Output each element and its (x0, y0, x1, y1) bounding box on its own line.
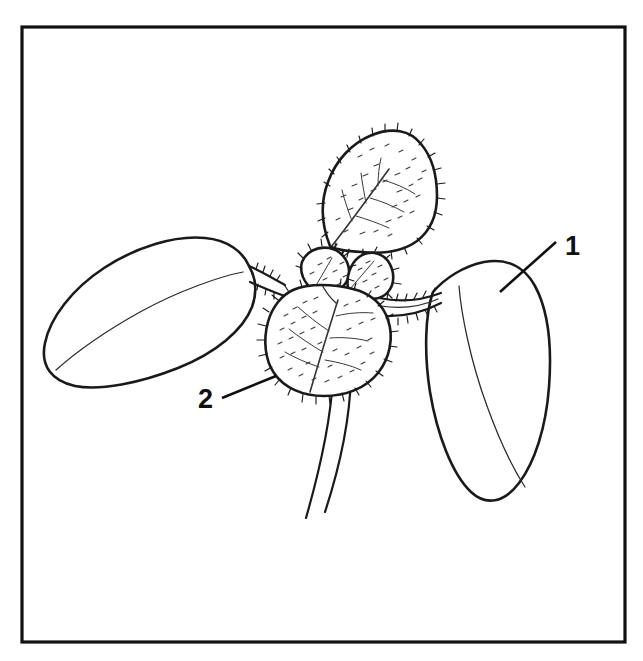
left-cotyledon (44, 238, 255, 388)
hypocotyl (306, 376, 351, 518)
callout-1-label: 1 (565, 231, 580, 261)
right-cotyledon (426, 261, 550, 501)
callout-2-label: 2 (198, 384, 213, 414)
seedling-illustration: 1 2 (0, 0, 643, 661)
callout-1[interactable]: 1 (500, 231, 580, 292)
upper-true-leaf (317, 123, 445, 260)
figure-page: 1 2 (0, 0, 643, 661)
callout-2-leader (222, 376, 276, 398)
callout-2[interactable]: 2 (198, 376, 276, 414)
